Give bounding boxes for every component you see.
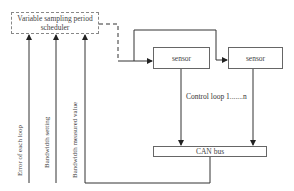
can-bus-box: CAN bus — [153, 146, 267, 157]
sensor-2-box: sensor — [228, 47, 283, 69]
scheduler-label-line2: scheduler — [41, 23, 70, 32]
sensor-1-box: sensor — [153, 47, 210, 69]
bandwidth-setting-label: Bandwidth setting — [43, 117, 51, 168]
error-of-each-loop-label: Error of each loop — [16, 125, 24, 176]
can-bus-label: CAN bus — [196, 147, 224, 156]
scheduler-box: Variable sampling period scheduler — [11, 12, 99, 34]
bandwidth-measured-value-label: Bandwidth measured value — [71, 102, 79, 178]
scheduler-label-line1: Variable sampling period — [17, 14, 92, 23]
scheduler-output-dashed-line — [99, 24, 118, 61]
control-loop-label: Control loop 1.......n — [186, 92, 247, 101]
sensor-2-label: sensor — [246, 54, 265, 63]
sensor-1-label: sensor — [172, 54, 191, 63]
